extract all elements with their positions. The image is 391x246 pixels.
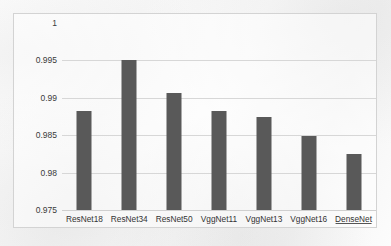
y-axis-tick-label: 0.975 xyxy=(36,206,57,215)
bar-group: DenseNet xyxy=(331,23,376,210)
y-axis-tick-label: 0.995 xyxy=(36,56,57,65)
y-axis-tick-label: 1 xyxy=(52,19,57,28)
bar-group: ResNet34 xyxy=(107,23,152,210)
x-axis-tick-label: ResNet50 xyxy=(156,215,193,223)
x-axis-tick-label: VggNet11 xyxy=(201,215,237,223)
bar xyxy=(346,154,361,210)
plot-area: 10.9950.990.9850.980.975 ResNet18ResNet3… xyxy=(62,23,376,210)
chart-page: 10.9950.990.9850.980.975 ResNet18ResNet3… xyxy=(0,0,391,246)
bar-group: VggNet16 xyxy=(286,23,331,210)
x-axis-tick-label: VggNet16 xyxy=(290,215,327,223)
bar-group: VggNet11 xyxy=(197,23,242,210)
x-axis-tick-label: ResNet34 xyxy=(111,215,148,223)
bar xyxy=(77,111,92,210)
chart-frame: 10.9950.990.9850.980.975 ResNet18ResNet3… xyxy=(13,13,377,228)
x-axis-tick-label: ResNet18 xyxy=(66,215,103,223)
y-axis-tick-label: 0.98 xyxy=(40,168,57,177)
y-axis-tick-label: 0.99 xyxy=(40,94,57,103)
bar-series: ResNet18ResNet34ResNet50VggNet11VggNet13… xyxy=(62,23,376,210)
bar-group: ResNet18 xyxy=(62,23,107,210)
bar-group: VggNet13 xyxy=(241,23,286,210)
bar xyxy=(211,111,226,210)
bar xyxy=(301,136,316,210)
gridline xyxy=(62,210,376,211)
y-axis-tick-label: 0.985 xyxy=(36,131,57,140)
bar xyxy=(256,117,271,210)
bar xyxy=(167,93,182,210)
x-axis-tick-label: VggNet13 xyxy=(245,215,282,223)
bar-group: ResNet50 xyxy=(152,23,197,210)
bar xyxy=(122,60,137,210)
x-axis-tick-label: DenseNet xyxy=(335,215,372,224)
